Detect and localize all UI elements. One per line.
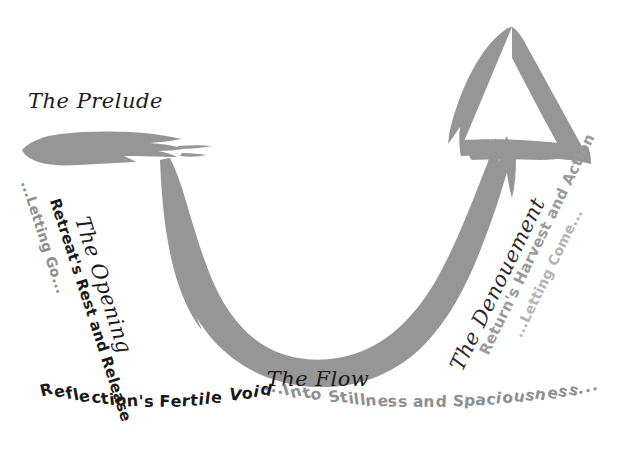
stage-label-prelude: The Prelude bbox=[28, 90, 163, 112]
stage-group-flow: The Flow Reflection's Fertile Void ...In… bbox=[45, 368, 590, 411]
arc-brushstroke bbox=[0, 0, 509, 387]
stage-tagline-flow: ...Into Stillness and Spaciousness... bbox=[271, 394, 590, 410]
journey-arc-diagram: The Prelude The Opening Retreat's Rest a… bbox=[0, 0, 636, 457]
stage-subtitle-flow: Reflection's Fertile Void bbox=[45, 394, 267, 411]
prelude-brushstroke bbox=[22, 131, 212, 165]
